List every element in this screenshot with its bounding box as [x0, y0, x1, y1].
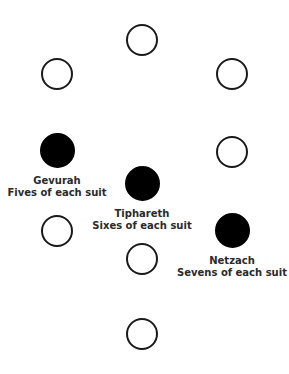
node-bottom [126, 318, 158, 350]
tree-of-life-diagram: Gevurah Fives of each suit Tiphareth Six… [0, 0, 289, 374]
label-netzach-name: Netzach [162, 255, 289, 267]
node-upper-right [216, 58, 248, 90]
node-top [126, 24, 158, 56]
label-netzach: Netzach Sevens of each suit [162, 255, 289, 279]
node-middle-right [216, 136, 248, 168]
node-netzach [215, 213, 250, 248]
label-gevurah-desc: Fives of each suit [0, 187, 127, 199]
label-netzach-desc: Sevens of each suit [162, 267, 289, 279]
label-tiphareth-desc: Sixes of each suit [72, 220, 212, 232]
label-tiphareth-name: Tiphareth [72, 208, 212, 220]
node-lower-center [126, 243, 158, 275]
node-tiphareth [125, 166, 160, 201]
label-gevurah-name: Gevurah [0, 175, 127, 187]
label-tiphareth: Tiphareth Sixes of each suit [72, 208, 212, 232]
label-gevurah: Gevurah Fives of each suit [0, 175, 127, 199]
node-lower-left [41, 215, 73, 247]
node-gevurah [40, 133, 75, 168]
node-upper-left [41, 58, 73, 90]
